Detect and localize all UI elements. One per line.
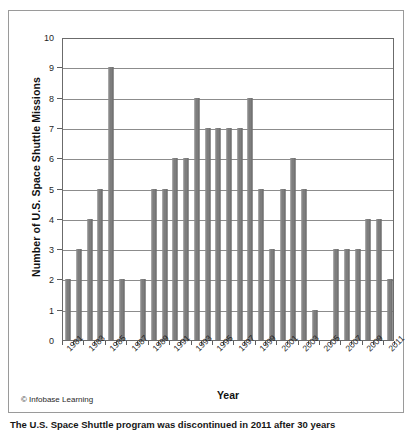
y-tick-label-6: 6 (49, 155, 54, 164)
x-axis-title: Year (62, 389, 394, 401)
bar (259, 189, 264, 341)
bar-slot (320, 39, 331, 340)
y-tick-label-2: 2 (49, 276, 54, 285)
bar-slot (213, 39, 224, 340)
y-tick-label-4: 4 (49, 215, 54, 224)
bar-slot (117, 39, 128, 340)
bar (366, 219, 371, 340)
bar-series (63, 39, 393, 340)
bar (355, 249, 360, 340)
bar (77, 249, 82, 340)
bar (162, 189, 167, 341)
bar (152, 189, 157, 341)
y-tick-label-8: 8 (49, 94, 54, 103)
bar-slot (341, 39, 352, 340)
bar (184, 158, 189, 340)
bar (194, 98, 199, 340)
bar (344, 249, 349, 340)
bar-slot (288, 39, 299, 340)
bar-slot (149, 39, 160, 340)
bar (216, 128, 221, 340)
bar-slot (202, 39, 213, 340)
bar (141, 279, 146, 340)
bar (301, 189, 306, 341)
bar (334, 249, 339, 340)
y-tick-mark-2 (57, 279, 62, 280)
bar-slot (277, 39, 288, 340)
bar (376, 219, 381, 340)
x-tick-mark (126, 341, 127, 345)
x-tick-mark (233, 341, 234, 345)
bar-slot (106, 39, 117, 340)
bar-slot (95, 39, 106, 340)
y-tick-mark-7 (57, 128, 62, 129)
y-tick-label-1: 1 (49, 306, 54, 315)
bar (291, 158, 296, 340)
figure-caption: The U.S. Space Shuttle program was disco… (10, 419, 335, 430)
bar-slot (192, 39, 203, 340)
bar-slot (363, 39, 374, 340)
bar-slot (181, 39, 192, 340)
x-tick-mark (383, 341, 384, 345)
y-tick-label-0: 0 (49, 337, 54, 346)
bar (248, 98, 253, 340)
x-tick-mark (340, 341, 341, 345)
chart-plot-area (62, 38, 394, 341)
bar-slot (74, 39, 85, 340)
y-tick-label-9: 9 (49, 64, 54, 73)
bar-slot (299, 39, 310, 340)
y-tick-mark-9 (57, 67, 62, 68)
bar-slot (63, 39, 74, 340)
bar (237, 128, 242, 340)
y-axis-title: Number of U.S. Space Shuttle Missions (30, 47, 42, 307)
bar-slot (138, 39, 149, 340)
bar-slot (245, 39, 256, 340)
bar (87, 219, 92, 340)
y-tick-label-5: 5 (49, 185, 54, 194)
bar (119, 279, 124, 340)
bar (173, 158, 178, 340)
bar-slot (331, 39, 342, 340)
y-tick-mark-5 (57, 189, 62, 190)
x-tick-mark (62, 341, 63, 345)
figure-container: 012345678910 Number of U.S. Space Shuttl… (0, 0, 412, 431)
bar (205, 128, 210, 340)
y-tick-label-7: 7 (49, 124, 54, 133)
x-tick-mark (169, 341, 170, 345)
x-axis-labels: 1981198319851987198919911993199519971999… (62, 347, 394, 387)
bar-slot (384, 39, 395, 340)
bar (98, 189, 103, 341)
copyright-credit: © Infobase Learning (21, 395, 93, 404)
y-tick-mark-3 (57, 249, 62, 250)
bar-slot (224, 39, 235, 340)
bar-slot (127, 39, 138, 340)
x-tick-mark (276, 341, 277, 345)
x-tick-mark (319, 341, 320, 345)
x-tick-mark (191, 341, 192, 345)
y-tick-label-3: 3 (49, 246, 54, 255)
bar-slot (84, 39, 95, 340)
y-tick-mark-1 (57, 310, 62, 311)
bar (66, 279, 71, 340)
y-tick-mark-8 (57, 98, 62, 99)
bar-slot (159, 39, 170, 340)
y-tick-mark-4 (57, 219, 62, 220)
y-tick-label-10: 10 (44, 34, 54, 43)
bar (109, 67, 114, 340)
bar-slot (309, 39, 320, 340)
x-tick-mark (83, 341, 84, 345)
figure-caption-clip: The U.S. Space Shuttle program was disco… (8, 419, 404, 431)
y-tick-mark-6 (57, 158, 62, 159)
bar-slot (170, 39, 181, 340)
bar-slot (234, 39, 245, 340)
bar (226, 128, 231, 340)
bar-slot (256, 39, 267, 340)
bar (387, 279, 392, 340)
bar (269, 249, 274, 340)
figure-frame: 012345678910 Number of U.S. Space Shuttl… (8, 10, 404, 413)
bar-slot (374, 39, 385, 340)
bar (280, 189, 285, 341)
bar-slot (266, 39, 277, 340)
bar-slot (352, 39, 363, 340)
